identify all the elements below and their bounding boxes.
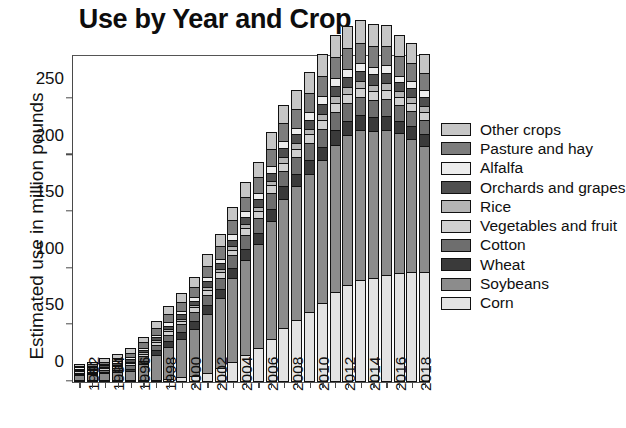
bar-2013[interactable] bbox=[342, 26, 353, 382]
bar-segment-pasture-and-hay bbox=[227, 220, 238, 234]
x-tick-mark bbox=[233, 382, 234, 388]
bar-2015[interactable] bbox=[368, 24, 379, 382]
bar-segment-vegetables-and-fruit bbox=[355, 88, 366, 97]
bar-2005[interactable] bbox=[240, 182, 251, 382]
bar-2017[interactable] bbox=[394, 35, 405, 382]
bar-segment-pasture-and-hay bbox=[176, 302, 187, 311]
bar-2012[interactable] bbox=[330, 35, 341, 382]
bar-2018[interactable] bbox=[406, 43, 417, 382]
x-tick-mark bbox=[92, 382, 93, 388]
bar-2010[interactable] bbox=[304, 72, 315, 382]
legend-swatch bbox=[441, 123, 471, 136]
x-tick-mark bbox=[156, 382, 157, 388]
x-tick-mark bbox=[310, 382, 311, 388]
legend-item-other-crops[interactable]: Other crops bbox=[441, 120, 626, 139]
bar-segment-alfalfa bbox=[406, 81, 417, 88]
bar-segment-vegetables-and-fruit bbox=[406, 103, 417, 111]
x-tick-mark bbox=[284, 382, 285, 388]
legend-item-cotton[interactable]: Cotton bbox=[441, 236, 626, 255]
bar-segment-other-crops bbox=[253, 162, 264, 178]
legend-item-orchards-and-grapes[interactable]: Orchards and grapes bbox=[441, 178, 626, 197]
x-tick-mark bbox=[182, 382, 183, 388]
gridline-x bbox=[98, 56, 99, 382]
legend-swatch bbox=[441, 258, 471, 271]
legend-swatch bbox=[441, 278, 471, 291]
bar-segment-vegetables-and-fruit bbox=[330, 103, 341, 112]
legend-item-rice[interactable]: Rice bbox=[441, 197, 626, 216]
bar-segment-alfalfa bbox=[266, 166, 277, 173]
bar-segment-cotton bbox=[355, 97, 366, 115]
bar-segment-other-crops bbox=[342, 26, 353, 49]
bar-segment-cotton bbox=[317, 129, 328, 147]
bar-segment-soybeans bbox=[291, 186, 302, 319]
x-tick-mark bbox=[105, 382, 106, 388]
bar-2007[interactable] bbox=[266, 132, 277, 382]
legend-item-corn[interactable]: Corn bbox=[441, 294, 626, 313]
bar-2011[interactable] bbox=[317, 54, 328, 382]
y-tick-mark bbox=[66, 380, 73, 381]
x-tick-mark bbox=[118, 382, 119, 388]
bar-segment-orchards-and-grapes bbox=[381, 73, 392, 83]
x-tick-mark bbox=[297, 382, 298, 388]
bar-segment-soybeans bbox=[266, 221, 277, 339]
bar-segment-wheat bbox=[355, 115, 366, 130]
bar-segment-alfalfa bbox=[317, 96, 328, 104]
bar-segment-soybeans bbox=[342, 135, 353, 284]
bar-segment-wheat bbox=[227, 268, 238, 278]
legend-label: Wheat bbox=[480, 256, 525, 274]
bar-segment-cotton bbox=[266, 193, 277, 209]
legend-item-vegetables-and-fruit[interactable]: Vegetables and fruit bbox=[441, 216, 626, 235]
bar-segment-other-crops bbox=[240, 182, 251, 197]
legend-label: Soybeans bbox=[480, 275, 549, 293]
bar-segment-wheat bbox=[253, 233, 264, 244]
y-tick-mark bbox=[66, 97, 73, 98]
legend-swatch bbox=[441, 162, 471, 175]
legend-item-alfalfa[interactable]: Alfalfa bbox=[441, 159, 626, 178]
bar-1992[interactable] bbox=[74, 364, 85, 383]
bar-segment-soybeans bbox=[368, 131, 379, 278]
bar-2019[interactable] bbox=[419, 54, 430, 382]
bar-segment-other-crops bbox=[227, 207, 238, 221]
y-tick-label-200: 200 bbox=[36, 126, 73, 146]
bar-2009[interactable] bbox=[291, 90, 302, 382]
bar-2008[interactable] bbox=[278, 105, 289, 382]
x-tick-mark bbox=[169, 382, 170, 388]
bar-segment-pasture-and-hay bbox=[304, 93, 315, 112]
bar-segment-cotton bbox=[304, 143, 315, 160]
x-tick-mark bbox=[258, 382, 259, 388]
x-tick-mark bbox=[412, 382, 413, 388]
bar-segment-alfalfa bbox=[330, 78, 341, 86]
bar-segment-soybeans bbox=[355, 130, 366, 280]
bar-segment-wheat bbox=[266, 209, 277, 221]
legend-item-wheat[interactable]: Wheat bbox=[441, 255, 626, 274]
bar-2006[interactable] bbox=[253, 162, 264, 382]
bar-2016[interactable] bbox=[381, 25, 392, 382]
bar-segment-rice bbox=[342, 87, 353, 94]
bar-segment-wheat bbox=[189, 321, 200, 329]
bar-segment-orchards-and-grapes bbox=[253, 199, 264, 207]
bar-segment-pasture-and-hay bbox=[266, 149, 277, 166]
bar-segment-orchards-and-grapes bbox=[355, 71, 366, 81]
legend-item-soybeans[interactable]: Soybeans bbox=[441, 274, 626, 293]
x-tick-label-2000: 2000 bbox=[187, 357, 205, 391]
bar-segment-pasture-and-hay bbox=[163, 314, 174, 322]
bar-segment-pasture-and-hay bbox=[202, 266, 213, 277]
bar-segment-orchards-and-grapes bbox=[330, 86, 341, 96]
bar-segment-wheat bbox=[240, 249, 251, 260]
bar-segment-other-crops bbox=[330, 35, 341, 58]
bar-segment-rice bbox=[368, 85, 379, 92]
bar-segment-wheat bbox=[330, 130, 341, 145]
bar-2014[interactable] bbox=[355, 20, 366, 382]
bar-segment-alfalfa bbox=[304, 112, 315, 120]
bar-segment-orchards-and-grapes bbox=[240, 217, 251, 224]
bar-segment-other-crops bbox=[394, 35, 405, 56]
bar-segment-orchards-and-grapes bbox=[394, 82, 405, 91]
x-tick-label-2016: 2016 bbox=[392, 357, 410, 391]
bar-segment-other-crops bbox=[151, 321, 162, 328]
bar-segment-wheat bbox=[176, 332, 187, 339]
bar-segment-rice bbox=[381, 83, 392, 90]
x-tick-label-1994: 1994 bbox=[110, 357, 128, 391]
legend-item-pasture-and-hay[interactable]: Pasture and hay bbox=[441, 139, 626, 158]
bar-segment-other-crops bbox=[278, 105, 289, 123]
bar-segment-other-crops bbox=[317, 54, 328, 75]
